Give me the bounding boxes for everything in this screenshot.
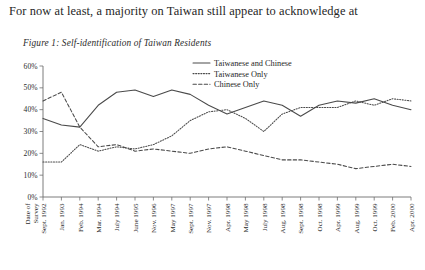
x-tick-label: Apr. 1999 [334,203,342,232]
chart-legend: Taiwanese and ChineseTaiwanese OnlyChine… [193,59,292,89]
x-tick-label: Aug. 1998 [279,203,287,233]
x-tick-label: July 1994 [113,203,121,231]
y-tick-label: 30% [24,127,39,136]
x-axis-labels: Sept. 1992Jan. 1993Feb. 1994Mar. 1994Jul… [40,203,416,234]
x-tick-label: Feb. 1994 [77,203,85,232]
x-tick-label: Feb. 2000 [389,203,397,232]
x-tick-label: Nov. 1997 [205,203,213,233]
legend-label: Chinese Only [214,80,260,89]
y-tick-label: 60% [24,62,39,71]
legend-label: Taiwanese and Chinese [214,59,292,68]
page-root: For now at least, a majority on Taiwan s… [0,0,425,270]
chart-figure: 0%10%20%30%40%50%60% Sept. 1992Jan. 1993… [0,55,425,270]
series-line-dashed [43,92,411,168]
data-series-group [43,90,411,169]
x-tick-label: Nov. 1996 [150,203,158,233]
y-tick-label: 40% [24,105,39,114]
x-tick-label: Mar. 1994 [95,203,103,233]
y-tick-label: 50% [24,83,39,92]
x-tick-label: Sept. 1998 [297,203,305,234]
x-tick-label: Sept. 1997 [187,203,195,234]
x-tick-label: Oct. 1999 [371,203,379,231]
x-axis-title: Date ofSurvey [24,203,40,225]
x-tick-label: Sept. 1992 [40,203,48,234]
x-tick-label: Jan. 1993 [58,203,66,231]
y-axis-labels: 0%10%20%30%40%50%60% [24,62,39,202]
y-axis-ticks [40,66,44,197]
x-tick-label: Oct. 1998 [316,203,324,231]
figure-caption: Figure 1: Self-identification of Taiwan … [23,38,211,48]
line-chart: 0%10%20%30%40%50%60% Sept. 1992Jan. 1993… [0,55,425,270]
series-line-solid [43,90,411,127]
x-tick-label: Apr. 2000 [408,203,416,232]
x-tick-label: July 1998 [261,203,269,231]
series-line-dotted [43,99,411,162]
x-tick-label: May 1998 [242,203,250,232]
y-tick-label: 10% [24,171,39,180]
x-tick-label: Apr. 1998 [224,203,232,232]
legend-label: Taiwanese Only [214,70,268,79]
x-tick-label: June 1995 [132,203,140,232]
y-tick-label: 20% [24,149,39,158]
x-tick-label: Aug. 1999 [353,203,361,233]
x-tick-label: May 1997 [169,203,177,232]
body-paragraph: For now at least, a majority on Taiwan s… [9,4,419,19]
x-axis-ticks [43,197,411,201]
x-axis-title-line: Survey [32,203,40,224]
y-tick-label: 0% [27,193,38,202]
